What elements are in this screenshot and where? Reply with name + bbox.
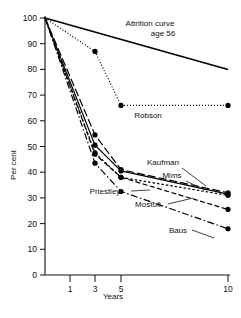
- attrition-annotation-line1: Attrition curve: [126, 19, 175, 28]
- attrition-chart: 0102030405060708090100 13510 Per cent Ye…: [0, 0, 241, 318]
- x-tick-label: 10: [223, 284, 233, 294]
- data-point: [92, 49, 97, 54]
- data-point: [92, 152, 97, 157]
- y-tick-label: 100: [23, 13, 37, 23]
- x-axis-title: Years: [103, 292, 123, 301]
- attrition-annotation-line2: age 56: [151, 29, 176, 38]
- series-label-mostofi: Mostofi: [135, 200, 161, 209]
- y-tick-label: 50: [28, 142, 38, 152]
- y-tick-label: 30: [28, 193, 38, 203]
- data-point: [92, 143, 97, 148]
- y-axis-title: Per cent: [9, 149, 18, 180]
- y-tick-label: 40: [28, 167, 38, 177]
- series-label-mims: Mims: [162, 171, 181, 180]
- y-tick-label: 80: [28, 64, 38, 74]
- data-point: [225, 226, 230, 231]
- data-point: [225, 207, 230, 212]
- y-tick-label: 10: [28, 244, 38, 254]
- y-tick-label: 0: [32, 270, 37, 280]
- series-label-baus: Baus: [169, 226, 187, 235]
- y-tick-label: 60: [28, 116, 38, 126]
- series-label-kaufman: Kaufman: [147, 158, 179, 167]
- chart-canvas: 0102030405060708090100 13510 Per cent Ye…: [0, 0, 241, 318]
- data-point: [118, 103, 123, 108]
- data-point: [118, 175, 123, 180]
- data-point: [225, 103, 230, 108]
- series-label-priestley: Priestley: [90, 187, 121, 196]
- x-tick-label: 1: [68, 284, 73, 294]
- data-point: [118, 168, 123, 173]
- data-point: [92, 161, 97, 166]
- x-tick-label: 3: [93, 284, 98, 294]
- y-tick-label: 20: [28, 219, 38, 229]
- series-label-robson: Robson: [134, 111, 162, 120]
- data-point: [92, 132, 97, 137]
- y-tick-label: 90: [28, 39, 38, 49]
- y-tick-label: 70: [28, 90, 38, 100]
- data-point: [225, 193, 230, 198]
